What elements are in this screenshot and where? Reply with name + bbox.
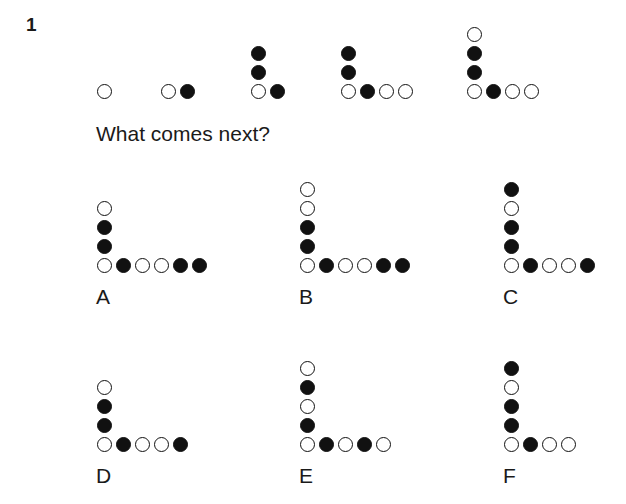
filled-circle-icon [116,258,131,273]
option-c-figure-column-cell [503,219,522,238]
sequence-item-4-row [340,83,416,102]
open-circle-icon [251,84,266,99]
option-b-figure-column [299,181,318,257]
sequence-item-3-column [250,45,269,83]
filled-circle-icon [523,258,538,273]
option-d-figure-column-cell [96,379,115,398]
option-c-figure-column [503,181,522,257]
filled-circle-icon [504,418,519,433]
option-d-figure-row-cell [153,436,172,455]
option-b-figure-row-cell [299,257,318,276]
filled-circle-icon [341,46,356,61]
option-e-figure-row [299,436,394,455]
sequence-item-5-row-cell [466,83,485,102]
option-a-figure-row [96,257,210,276]
open-circle-icon [542,258,557,273]
option-b-figure-row [299,257,413,276]
open-circle-icon [135,437,150,452]
filled-circle-icon [504,399,519,414]
question-number: 1 [26,15,37,34]
sequence-item-1-row [96,83,115,102]
option-f-figure-column-cell [503,398,522,417]
option-a-figure-column [96,200,115,257]
option-d-figure-row-cell [134,436,153,455]
open-circle-icon [300,399,315,414]
open-circle-icon [300,201,315,216]
option-d-figure-row-cell [96,436,115,455]
option-b-label[interactable]: B [299,286,313,307]
filled-circle-icon [251,65,266,80]
filled-circle-icon [97,220,112,235]
sequence-item-3-row [250,83,288,102]
option-c-figure-row-cell [522,257,541,276]
open-circle-icon [504,201,519,216]
open-circle-icon [467,27,482,42]
filled-circle-icon [357,437,372,452]
option-e-figure-row-cell [299,436,318,455]
sequence-item-4-row-cell [378,83,397,102]
option-a-figure-column-cell [96,238,115,257]
option-b-figure-row-cell [375,257,394,276]
option-d-figure-row-cell [172,436,191,455]
filled-circle-icon [300,220,315,235]
open-circle-icon [504,437,519,452]
option-b-figure-column-cell [299,200,318,219]
filled-circle-icon [300,418,315,433]
sequence-item-3-column-cell [250,45,269,64]
option-f-figure-column-cell [503,379,522,398]
option-a-figure-row-cell [134,257,153,276]
open-circle-icon [561,437,576,452]
filled-circle-icon [486,84,501,99]
option-c-label[interactable]: C [503,286,518,307]
sequence-item-4-row-cell [397,83,416,102]
option-f-figure-row [503,436,579,455]
option-e-label[interactable]: E [299,465,313,486]
option-f-figure-row-cell [560,436,579,455]
sequence-item-5-column-cell [466,64,485,83]
option-a-figure-row-cell [172,257,191,276]
filled-circle-icon [395,258,410,273]
sequence-item-5-row [466,83,542,102]
filled-circle-icon [523,437,538,452]
open-circle-icon [398,84,413,99]
filled-circle-icon [180,84,195,99]
sequence-item-5-row-cell [504,83,523,102]
open-circle-icon [338,437,353,452]
option-a-figure-row-cell [191,257,210,276]
option-f-figure-row-cell [541,436,560,455]
open-circle-icon [561,258,576,273]
option-f-label[interactable]: F [503,465,516,486]
option-a-label[interactable]: A [96,286,110,307]
sequence-item-2-row-cell [179,83,198,102]
filled-circle-icon [504,182,519,197]
option-e-figure-column-cell [299,379,318,398]
question-prompt: What comes next? [96,123,270,144]
option-d-figure-row-cell [115,436,134,455]
open-circle-icon [338,258,353,273]
option-e-figure-row-cell [318,436,337,455]
option-d-figure-column-cell [96,417,115,436]
filled-circle-icon [173,437,188,452]
option-d-label[interactable]: D [96,465,111,486]
sequence-item-5-column [466,26,485,83]
option-a-figure-column-cell [96,200,115,219]
option-a-figure-row-cell [153,257,172,276]
open-circle-icon [97,380,112,395]
option-a-figure-row-cell [96,257,115,276]
sequence-item-4-column [340,45,359,83]
filled-circle-icon [173,258,188,273]
open-circle-icon [135,258,150,273]
option-c-figure-row [503,257,598,276]
option-e-figure-column-cell [299,398,318,417]
option-c-figure-row-cell [503,257,522,276]
option-e-figure-row-cell [356,436,375,455]
option-f-figure-column-cell [503,360,522,379]
sequence-item-3-row-cell [250,83,269,102]
option-e-figure-row-cell [375,436,394,455]
option-b-figure-row-cell [394,257,413,276]
option-b-figure-row-cell [356,257,375,276]
puzzle-canvas: 1 What comes next? ABCDEF [0,0,626,504]
filled-circle-icon [467,65,482,80]
open-circle-icon [467,84,482,99]
open-circle-icon [504,380,519,395]
